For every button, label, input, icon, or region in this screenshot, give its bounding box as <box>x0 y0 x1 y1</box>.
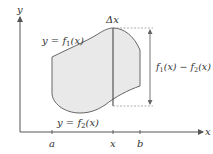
delta-x-label: Δx <box>105 14 119 25</box>
area-between-curves-diagram: y x a x b y = f1(x) y = f2(x) Δx f1(x) −… <box>0 0 213 154</box>
x-axis-label: x <box>205 126 211 137</box>
lower-curve-label: y = f2(x) <box>56 117 99 130</box>
tick-label-b: b <box>137 138 143 149</box>
tick-label-x: x <box>110 138 116 149</box>
height-difference-label: f1(x) − f2(x) <box>155 61 211 74</box>
tick-label-a: a <box>49 138 55 149</box>
y-axis-label: y <box>16 4 23 15</box>
